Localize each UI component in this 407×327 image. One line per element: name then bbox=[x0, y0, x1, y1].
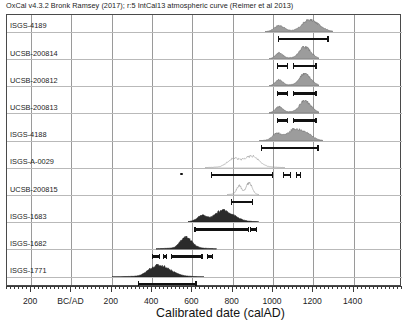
tick-minor bbox=[212, 286, 213, 289]
tick-minor bbox=[91, 286, 92, 289]
tick-minor bbox=[264, 286, 265, 289]
gridline-200 bbox=[112, 15, 113, 285]
x-tick-label: 600 bbox=[184, 296, 198, 306]
range-marker bbox=[180, 173, 182, 175]
range-cap bbox=[152, 254, 153, 260]
tick-major bbox=[312, 286, 313, 292]
x-tick-label: 1400 bbox=[343, 296, 362, 306]
tick-minor bbox=[240, 286, 241, 289]
range-cap bbox=[287, 63, 288, 69]
tick-minor bbox=[34, 286, 35, 289]
x-tick-label: BC/AD bbox=[57, 296, 83, 306]
row-label-ucsb-200815: UCSB-200815 bbox=[10, 184, 58, 193]
axis-title-wrap: Calibrated date (calAD) bbox=[0, 306, 407, 320]
range-cap bbox=[163, 254, 164, 260]
range-bar bbox=[171, 255, 202, 257]
range-cap bbox=[256, 227, 257, 233]
row-label-ucsb-200813: UCSB-200813 bbox=[10, 103, 58, 112]
tick-minor bbox=[54, 286, 55, 289]
tick-major bbox=[191, 286, 192, 292]
tick-minor bbox=[349, 286, 350, 289]
tick-minor bbox=[220, 286, 221, 289]
tick-minor bbox=[248, 286, 249, 289]
tick-minor bbox=[83, 286, 84, 289]
row-baseline bbox=[7, 249, 402, 250]
tick-minor bbox=[115, 286, 116, 289]
range-cap bbox=[207, 254, 208, 260]
tick-major bbox=[151, 286, 152, 292]
tick-minor bbox=[175, 286, 176, 289]
row-baseline bbox=[7, 113, 402, 114]
distribution-ucsb-200812 bbox=[269, 73, 319, 86]
tick-major bbox=[353, 286, 354, 292]
tick-minor bbox=[50, 286, 51, 289]
range-cap bbox=[277, 91, 278, 97]
distribution-ucsb-200815 bbox=[227, 182, 259, 195]
tick-minor bbox=[268, 286, 269, 289]
x-tick-label: 1200 bbox=[303, 296, 322, 306]
tick-minor bbox=[87, 286, 88, 289]
range-cap bbox=[327, 36, 328, 42]
tick-minor bbox=[292, 286, 293, 289]
range-cap bbox=[287, 118, 288, 124]
tick-minor bbox=[127, 286, 128, 289]
range-bar bbox=[194, 228, 248, 230]
tick-minor bbox=[155, 286, 156, 289]
tick-minor bbox=[139, 286, 140, 289]
range-bar bbox=[261, 147, 318, 149]
tick-minor bbox=[6, 286, 7, 289]
tick-minor bbox=[365, 286, 366, 289]
range-bar bbox=[293, 92, 316, 94]
tick-minor bbox=[324, 286, 325, 289]
distribution-isgs-a-0029 bbox=[205, 155, 286, 168]
tick-minor bbox=[316, 286, 317, 289]
tick-minor bbox=[300, 286, 301, 289]
range-cap bbox=[201, 254, 202, 260]
tick-minor bbox=[381, 286, 382, 289]
range-cap bbox=[272, 172, 273, 178]
tick-minor bbox=[393, 286, 394, 289]
tick-minor bbox=[357, 286, 358, 289]
row-baseline bbox=[7, 32, 402, 33]
tick-minor bbox=[167, 286, 168, 289]
tick-minor bbox=[38, 286, 39, 289]
tick-minor bbox=[260, 286, 261, 289]
tick-minor bbox=[389, 286, 390, 289]
row-label-ucsb-200814: UCSB-200814 bbox=[10, 48, 58, 57]
tick-minor bbox=[14, 286, 15, 289]
tick-minor bbox=[75, 286, 76, 289]
tick-minor bbox=[103, 286, 104, 289]
tick-minor bbox=[320, 286, 321, 289]
tick-minor bbox=[252, 286, 253, 289]
row-baseline bbox=[7, 222, 402, 223]
range-cap bbox=[300, 172, 301, 178]
x-tick-label: 800 bbox=[225, 296, 239, 306]
tick-minor bbox=[401, 286, 402, 289]
range-cap bbox=[248, 227, 249, 233]
tick-minor bbox=[369, 286, 370, 289]
gridline-400 bbox=[152, 15, 153, 285]
tick-minor bbox=[397, 286, 398, 289]
range-cap bbox=[171, 254, 172, 260]
distribution-isgs-4188 bbox=[259, 128, 324, 141]
range-cap bbox=[290, 172, 291, 178]
gridline-BC-AD bbox=[71, 15, 72, 285]
distribution-ucsb-200814 bbox=[269, 46, 319, 59]
plot-frame bbox=[6, 14, 401, 286]
tick-minor bbox=[79, 286, 80, 289]
tick-minor bbox=[373, 286, 374, 289]
tick-minor bbox=[147, 286, 148, 289]
tick-minor bbox=[187, 286, 188, 289]
tick-minor bbox=[341, 286, 342, 289]
tick-minor bbox=[276, 286, 277, 289]
tick-minor bbox=[58, 286, 59, 289]
gridline-800 bbox=[233, 15, 234, 285]
tick-minor bbox=[95, 286, 96, 289]
distribution-ucsb-200813 bbox=[269, 100, 319, 113]
row-label-isgs-1771: ISGS-1771 bbox=[10, 266, 47, 275]
range-cap bbox=[277, 118, 278, 124]
range-cap bbox=[250, 227, 251, 233]
range-bar bbox=[211, 174, 273, 176]
distribution-isgs-1771 bbox=[112, 264, 205, 277]
tick-minor bbox=[304, 286, 305, 289]
